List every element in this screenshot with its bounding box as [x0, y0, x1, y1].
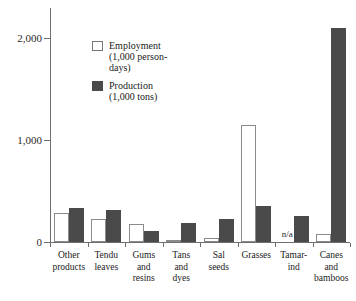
x-tick-0 — [88, 243, 89, 247]
legend-label-production-line2: (1,000 tons) — [109, 91, 157, 102]
legend-item-production: Production (1,000 tons) — [92, 80, 167, 102]
bar-production-7 — [331, 28, 346, 243]
x-tick-5 — [275, 243, 276, 247]
category-label-7-line1: and — [307, 262, 356, 274]
bar-production-5 — [256, 206, 271, 242]
bar-chart: 0 1,000 2,000 n/a OtherproductsTenduleav… — [0, 0, 356, 301]
bar-production-3 — [181, 223, 196, 242]
category-label-7: Canesandbamboos — [307, 250, 356, 285]
bar-production-2 — [144, 231, 159, 242]
chart-legend: Employment (1,000 person- days) Producti… — [92, 40, 167, 109]
x-tick-7 — [350, 243, 351, 247]
bar-production-0 — [69, 208, 84, 242]
category-label-3-line2: dyes — [157, 273, 207, 285]
x-tick-6 — [313, 243, 314, 247]
category-label-7-line2: bamboos — [307, 273, 356, 285]
bar-employment-1 — [91, 219, 106, 242]
legend-label-production: Production (1,000 tons) — [109, 80, 157, 102]
x-tick-origin — [50, 243, 51, 247]
x-tick-1 — [125, 243, 126, 247]
bar-employment-7 — [316, 234, 331, 242]
legend-item-employment: Employment (1,000 person- days) — [92, 40, 167, 73]
bar-employment-0 — [54, 213, 69, 242]
x-tick-2 — [163, 243, 164, 247]
legend-label-employment-line3: days) — [109, 62, 167, 73]
category-label-4-line1: seeds — [194, 262, 244, 274]
y-tick-label-2000: 2,000 — [0, 33, 42, 44]
bar-production-1 — [106, 210, 121, 242]
bar-employment-5 — [241, 125, 256, 242]
bar-employment-4 — [204, 238, 219, 242]
x-tick-4 — [238, 243, 239, 247]
production-swatch-icon — [92, 81, 103, 91]
bar-employment-2 — [129, 224, 144, 242]
bar-production-4 — [219, 219, 234, 242]
employment-swatch-icon — [92, 41, 103, 51]
legend-label-employment-line1: Employment — [109, 40, 161, 51]
legend-label-production-line1: Production — [109, 80, 153, 91]
legend-label-employment-line2: (1,000 person- — [109, 51, 167, 62]
y-tick-label-0: 0 — [0, 237, 42, 248]
category-label-7-line0: Canes — [307, 250, 356, 262]
legend-label-employment: Employment (1,000 person- days) — [109, 40, 167, 73]
y-tick-label-1000: 1,000 — [0, 135, 42, 146]
x-tick-3 — [200, 243, 201, 247]
bar-employment-3 — [166, 240, 181, 242]
na-annotation: n/a — [277, 230, 298, 239]
